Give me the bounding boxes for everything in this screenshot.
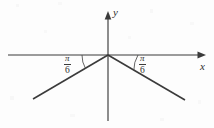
right-angle-denominator: 6 [139,65,146,75]
x-axis-arrowhead-icon [198,52,207,59]
left-angle-measure-label: π 6 [64,54,71,75]
right-terminal-ray [108,55,185,100]
coordinate-plane-svg [0,0,214,128]
left-angle-numerator: π [64,54,71,64]
left-angle-denominator: 6 [64,65,71,75]
y-axis-label: y [113,7,118,18]
left-angle-arc [82,55,86,69]
angle-diagram-figure: y x π 6 π 6 [0,0,214,128]
right-angle-numerator: π [139,54,146,64]
x-axis-label: x [200,61,205,72]
y-axis-arrowhead-icon [105,11,112,20]
right-angle-measure-label: π 6 [139,54,146,75]
right-angle-arc [134,55,138,71]
